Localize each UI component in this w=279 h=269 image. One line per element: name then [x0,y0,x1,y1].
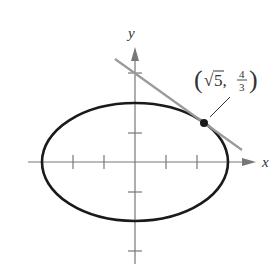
ellipse-diagram: x y ( √ 5, 4 3 ) [0,0,279,269]
svg-text:(: ( [194,65,203,94]
tangent-point [200,119,208,127]
svg-text:5,: 5, [214,71,227,90]
x-axis-arrow-icon [242,158,256,166]
svg-text:√: √ [204,71,214,90]
y-axis-arrow-icon [131,47,139,61]
label-leader-line [210,97,230,117]
x-axis-label: x [261,154,269,170]
svg-text:3: 3 [239,81,245,93]
y-axis-label: y [126,25,135,41]
point-label: ( √ 5, 4 3 ) [194,65,258,94]
svg-text:): ) [249,65,258,94]
svg-text:4: 4 [239,68,245,80]
